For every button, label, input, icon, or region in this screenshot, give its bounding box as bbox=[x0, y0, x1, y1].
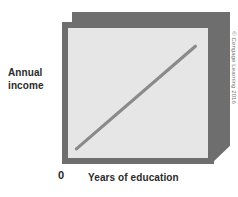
trend-line-chart bbox=[68, 28, 208, 158]
y-axis-label: Annual income bbox=[8, 66, 62, 92]
plot-box bbox=[62, 12, 230, 164]
figure-container: Annual income 0 Years of education © Cen… bbox=[0, 0, 238, 197]
y-axis-label-line2: income bbox=[8, 79, 62, 92]
plot-frame bbox=[62, 22, 214, 164]
trend-line bbox=[76, 46, 195, 149]
x-axis-label: Years of education bbox=[88, 172, 179, 183]
origin-label: 0 bbox=[58, 169, 64, 181]
copyright-credit: © Cengage Learning 2016 bbox=[231, 31, 237, 104]
plot-area bbox=[68, 28, 208, 158]
y-axis-label-line1: Annual bbox=[8, 66, 62, 79]
